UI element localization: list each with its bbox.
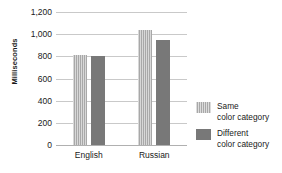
y-tick-label: 200: [2, 118, 52, 128]
legend-label: Differentcolor category: [217, 128, 269, 149]
bar-russian-same: [138, 30, 152, 145]
y-tick-label: 800: [2, 51, 52, 61]
legend-entry-same[interactable]: Samecolor category: [196, 101, 269, 122]
legend: Samecolor categoryDifferentcolor categor…: [196, 101, 269, 155]
y-axis-tick-labels: 02004006008001,0001,200: [0, 12, 52, 145]
legend-label: Samecolor category: [217, 101, 269, 122]
legend-label-line1: Same: [217, 101, 269, 112]
bar-russian-different: [156, 40, 170, 145]
plot-area: [56, 12, 187, 145]
bar-chart: Milliseconds 02004006008001,0001,200 Eng…: [0, 0, 282, 173]
y-tick-label: 400: [2, 96, 52, 106]
y-tick-label: 1,200: [2, 7, 52, 17]
legend-entry-different[interactable]: Differentcolor category: [196, 128, 269, 149]
legend-swatch-icon: [196, 102, 211, 113]
y-tick-label: 0: [2, 140, 52, 150]
legend-label-line2: color category: [217, 139, 269, 150]
legend-label-line1: Different: [217, 128, 269, 139]
bar-english-same: [73, 55, 87, 145]
x-tick-label-russian: Russian: [114, 150, 194, 160]
y-tick-label: 600: [2, 74, 52, 84]
bars-layer: [56, 12, 187, 145]
gridline: [56, 145, 187, 146]
bar-english-different: [91, 56, 105, 145]
y-tick-label: 1,000: [2, 29, 52, 39]
legend-swatch-icon: [196, 129, 211, 140]
legend-label-line2: color category: [217, 112, 269, 123]
